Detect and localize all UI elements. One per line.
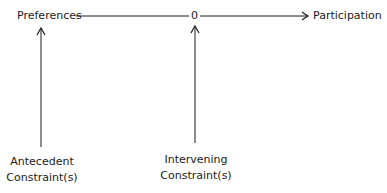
intervening-label-line2: Constraint(s) (160, 169, 231, 182)
intervening-label-line1: Intervening (160, 153, 231, 166)
node-zero: 0 (191, 9, 198, 22)
node-preferences: Preferences (17, 9, 82, 22)
antecedent-label-line2: Constraint(s) (6, 171, 77, 184)
node-antecedent-constraints: Antecedent Constraint(s) (6, 155, 77, 184)
antecedent-label-line1: Antecedent (6, 155, 77, 168)
node-participation: Participation (313, 9, 382, 22)
node-intervening-constraints: Intervening Constraint(s) (160, 153, 231, 182)
